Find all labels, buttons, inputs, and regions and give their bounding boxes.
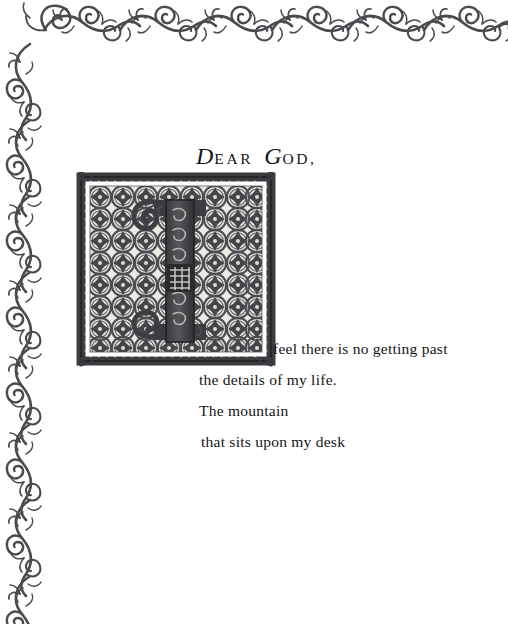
page-canvas: DEARGOD, [0,0,508,624]
poem-body: feel there is no getting past the detail… [0,0,508,624]
poem-line-3: The mountain [199,402,289,420]
poem-line-1: feel there is no getting past [273,340,448,358]
poem-line-4: that sits upon my desk [201,433,345,451]
poem-line-2: the details of my life. [199,371,337,389]
